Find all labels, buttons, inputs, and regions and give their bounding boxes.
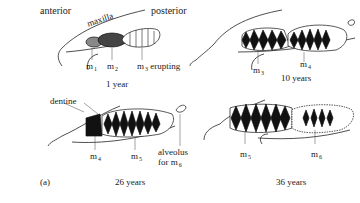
tooth-label-m5-36y: m5	[240, 150, 251, 160]
anterior-label: anterior	[40, 6, 71, 16]
alveolus-label: alveolus for m6	[158, 147, 188, 170]
age-label-10-years: 10 years	[281, 74, 311, 83]
tooth-label-m6-36y: m6	[311, 150, 322, 160]
age-label-36-years: 36 years	[276, 178, 306, 187]
tooth-label-m5-26y: m5	[131, 152, 142, 162]
age-label-1-year: 1 year	[106, 80, 128, 89]
tooth-label-m3-erupting: m3 erupting	[137, 62, 180, 72]
tooth-label-m4-26y: m4	[90, 152, 101, 162]
tooth-label-m4: m4	[300, 60, 311, 70]
posterior-label: posterior	[151, 6, 187, 16]
tooth-label-m1: m1	[86, 62, 97, 72]
age-label-26-years: 26 years	[115, 178, 145, 187]
dentine-label: dentine	[50, 97, 77, 106]
tooth-label-m2: m2	[107, 62, 118, 72]
panel-label-a: (a)	[40, 178, 50, 187]
tooth-label-m3: m3	[253, 66, 264, 76]
